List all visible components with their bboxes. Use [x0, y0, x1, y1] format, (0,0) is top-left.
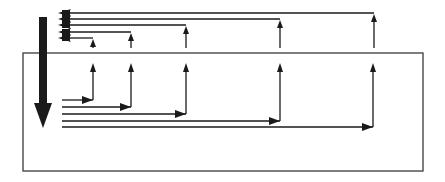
upper-branch — [58, 21, 189, 48]
flow-diagram — [0, 0, 445, 182]
lower-branch — [62, 63, 189, 118]
lower-branches — [62, 63, 376, 131]
upper-branches — [58, 9, 377, 48]
lower-branch — [62, 63, 96, 104]
lower-branch — [62, 63, 283, 125]
main-down-arrow-icon — [34, 17, 52, 128]
enclosing-box — [23, 53, 423, 171]
lower-branch — [62, 63, 134, 111]
upper-branch — [58, 9, 377, 48]
diagram-svg — [0, 0, 445, 182]
upper-branch — [58, 34, 96, 48]
